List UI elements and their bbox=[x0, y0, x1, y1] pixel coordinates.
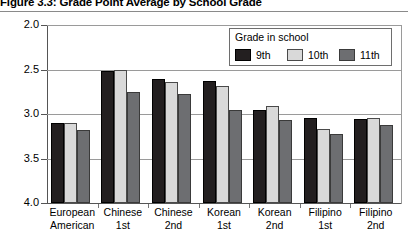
bar-chinese-1st-11th bbox=[127, 92, 140, 203]
y-tick-mark bbox=[41, 203, 47, 204]
bar-korean-1st-11th bbox=[229, 110, 242, 203]
y-tick-label: 2.0 bbox=[5, 19, 39, 30]
x-axis-line bbox=[47, 203, 402, 204]
bar-filipino-2nd-11th bbox=[380, 125, 393, 203]
y-tick-label: 3.5 bbox=[5, 153, 39, 164]
legend-swatch-11th bbox=[339, 49, 355, 61]
bar-korean-2nd-10th bbox=[266, 106, 279, 203]
y-tick-mark bbox=[41, 25, 47, 26]
figure-title: Figure 3.3: Grade Point Average by Schoo… bbox=[0, 0, 408, 11]
bar-chinese-2nd-9th bbox=[152, 79, 165, 203]
figure-container: Figure 3.3: Grade Point Average by Schoo… bbox=[0, 0, 408, 246]
legend-swatch-10th bbox=[287, 49, 303, 61]
bar-filipino-1st-11th bbox=[330, 134, 343, 203]
bar-filipino-1st-9th bbox=[304, 118, 317, 203]
bar-chinese-2nd-10th bbox=[165, 82, 178, 203]
x-axis-label-filipino-2nd: Filipino2nd bbox=[331, 206, 408, 232]
y-tick-mark bbox=[41, 159, 47, 160]
y-tick-mark bbox=[41, 70, 47, 71]
legend-label-9th: 9th bbox=[256, 49, 271, 61]
bar-filipino-2nd-9th bbox=[354, 119, 367, 203]
bar-korean-2nd-11th bbox=[279, 120, 292, 203]
bar-european-american-10th bbox=[64, 123, 77, 203]
bar-korean-1st-9th bbox=[203, 81, 216, 203]
bar-korean-1st-10th bbox=[216, 86, 229, 203]
y-tick-label: 3.0 bbox=[5, 108, 39, 119]
legend-entries: 9th10th11th bbox=[235, 48, 390, 63]
legend-swatch-9th bbox=[235, 49, 251, 61]
legend: Grade in school 9th10th11th bbox=[229, 28, 392, 66]
gridline-4.0 bbox=[47, 25, 402, 26]
bar-european-american-11th bbox=[77, 130, 90, 203]
gridline-3.5 bbox=[47, 70, 402, 71]
figure-title-text: Figure 3.3: Grade Point Average by Schoo… bbox=[0, 0, 262, 8]
bar-chinese-2nd-11th bbox=[178, 94, 191, 203]
title-divider bbox=[0, 11, 408, 12]
bar-chinese-1st-10th bbox=[114, 70, 127, 203]
bar-korean-2nd-9th bbox=[253, 110, 266, 203]
y-tick-mark bbox=[41, 114, 47, 115]
bar-filipino-1st-10th bbox=[317, 129, 330, 203]
legend-title: Grade in school bbox=[235, 31, 309, 43]
bar-chinese-1st-9th bbox=[101, 71, 114, 203]
legend-label-10th: 10th bbox=[308, 49, 328, 61]
y-tick-label: 2.5 bbox=[5, 64, 39, 75]
bar-european-american-9th bbox=[51, 123, 64, 203]
legend-label-11th: 11th bbox=[360, 49, 380, 61]
bar-filipino-2nd-10th bbox=[367, 118, 380, 203]
